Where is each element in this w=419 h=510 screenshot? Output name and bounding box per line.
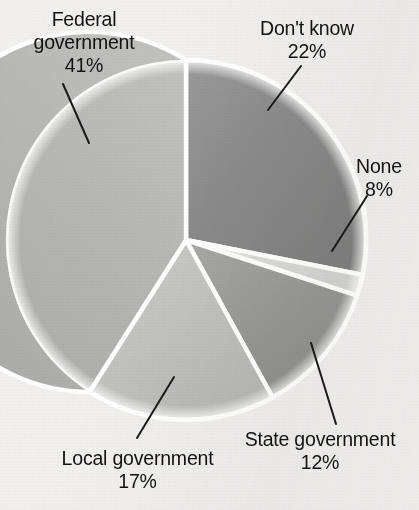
slice-label-local-government-name: Local government bbox=[35, 447, 240, 470]
slice-label-none-name: None bbox=[345, 155, 413, 178]
slice-label-none-percent: 8% bbox=[345, 178, 413, 201]
slice-label-dont-know: Don't know 22% bbox=[244, 17, 370, 63]
slice-label-state-government-name: State government bbox=[222, 428, 418, 451]
slice-label-state-government: State government 12% bbox=[222, 428, 418, 474]
slice-label-local-government-percent: 17% bbox=[35, 470, 240, 493]
slice-label-dont-know-name: Don't know bbox=[244, 17, 370, 40]
slice-label-none: None 8% bbox=[345, 155, 413, 201]
slice-label-state-government-percent: 12% bbox=[222, 451, 418, 474]
slice-label-dont-know-percent: 22% bbox=[244, 40, 370, 63]
slice-label-local-government: Local government 17% bbox=[35, 447, 240, 493]
slice-label-federal-government-percent: 41% bbox=[14, 54, 154, 77]
slice-label-federal-government: Federal government 41% bbox=[14, 8, 154, 77]
slice-label-federal-government-name: Federal government bbox=[14, 8, 154, 54]
pie-chart-figure: Federal government 41% Don't know 22% No… bbox=[0, 0, 419, 510]
